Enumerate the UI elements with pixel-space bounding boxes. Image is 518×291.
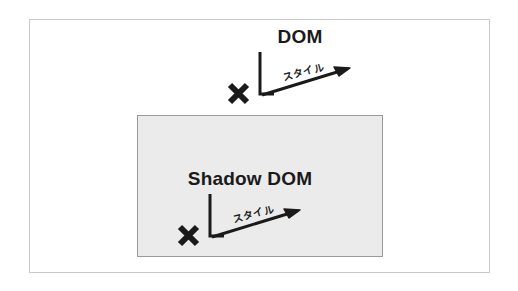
dom-style-arrowhead	[334, 67, 350, 76]
dom-group: DOM スタイル	[200, 26, 400, 116]
dom-style-flow-diagram	[200, 48, 400, 116]
shadow-dom-blocked-x-icon	[180, 227, 197, 244]
shadow-dom-group: Shadow DOM スタイル	[150, 168, 350, 258]
figure-root: DOM スタイル Shadow DOM スタイル	[0, 0, 518, 291]
dom-blocked-x-icon	[230, 85, 247, 102]
dom-stem-line	[260, 52, 274, 94]
shadow-dom-title: Shadow DOM	[150, 168, 350, 189]
shadow-dom-stem-line	[210, 194, 224, 236]
dom-title: DOM	[200, 26, 400, 47]
shadow-dom-style-flow-diagram	[150, 190, 350, 258]
shadow-dom-style-arrowhead	[284, 209, 300, 218]
